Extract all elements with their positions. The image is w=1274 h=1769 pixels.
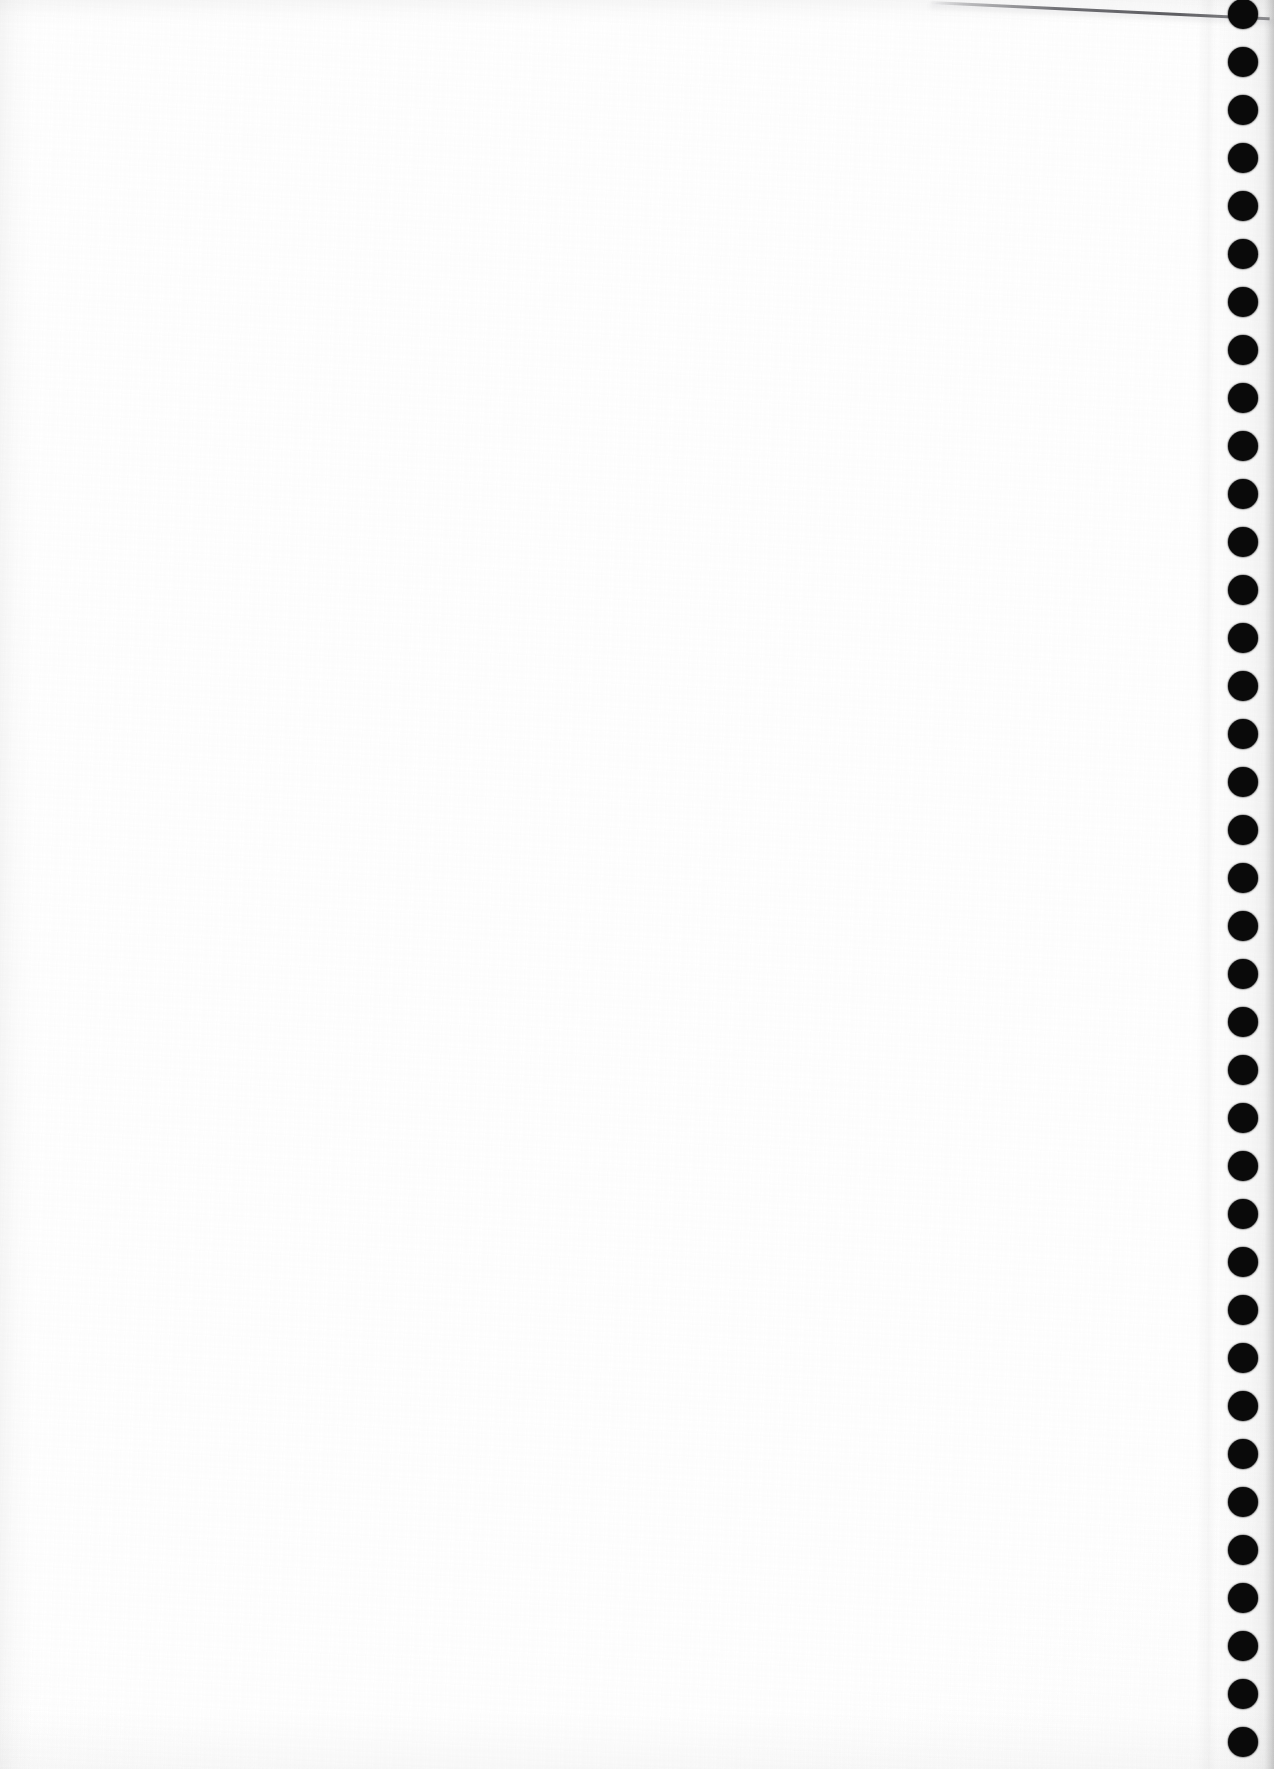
punch-hole	[1228, 671, 1258, 701]
punch-hole	[1228, 1487, 1258, 1517]
punch-hole	[1228, 767, 1258, 797]
punch-hole	[1228, 1199, 1258, 1229]
punch-hole	[1228, 1295, 1258, 1325]
punch-hole	[1228, 239, 1258, 269]
punch-hole	[1228, 191, 1258, 221]
punch-hole	[1228, 815, 1258, 845]
punch-hole	[1228, 719, 1258, 749]
punch-hole	[1228, 1631, 1258, 1661]
punch-hole	[1228, 1247, 1258, 1277]
punch-hole	[1228, 1439, 1258, 1469]
punch-hole	[1228, 335, 1258, 365]
punch-hole	[1228, 383, 1258, 413]
punch-hole	[1228, 143, 1258, 173]
punch-hole	[1228, 1583, 1258, 1613]
punch-hole	[1228, 479, 1258, 509]
punch-hole	[1228, 47, 1258, 77]
punch-hole	[1228, 431, 1258, 461]
punch-hole	[1228, 287, 1258, 317]
punch-hole	[1228, 95, 1258, 125]
punch-hole	[1228, 1151, 1258, 1181]
punch-hole	[1228, 1391, 1258, 1421]
punch-hole	[1228, 1727, 1258, 1757]
punch-hole	[1228, 1343, 1258, 1373]
punch-hole	[1228, 623, 1258, 653]
punch-hole	[1228, 959, 1258, 989]
punch-hole	[1228, 1103, 1258, 1133]
punch-hole	[1228, 527, 1258, 557]
punch-hole	[1228, 1055, 1258, 1085]
punch-hole	[1228, 1007, 1258, 1037]
punch-hole	[1228, 1535, 1258, 1565]
punch-hole	[1228, 1679, 1258, 1709]
punch-hole	[1228, 0, 1258, 29]
punch-hole	[1228, 863, 1258, 893]
punch-hole	[1228, 575, 1258, 605]
punch-hole	[1228, 911, 1258, 941]
page-content-area	[40, 40, 1180, 1730]
scanned-page	[0, 0, 1274, 1769]
